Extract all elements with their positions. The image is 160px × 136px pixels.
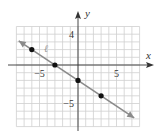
line-label: ℓ [44, 43, 48, 54]
data-point [99, 93, 104, 98]
labels-layer: x y ℓ −554−5 [34, 7, 151, 109]
x-axis-label: x [145, 49, 151, 61]
x-tick-label: 5 [114, 68, 119, 79]
data-point [52, 62, 57, 67]
y-axis-label: y [84, 7, 90, 19]
y-tick-label: −5 [63, 98, 74, 109]
data-point [75, 78, 80, 83]
coordinate-plane: x y ℓ −554−5 [0, 0, 160, 136]
data-point [29, 47, 34, 52]
y-tick-label: 4 [69, 29, 74, 40]
x-tick-label: −5 [34, 68, 45, 79]
line-arrow-end [127, 111, 135, 118]
